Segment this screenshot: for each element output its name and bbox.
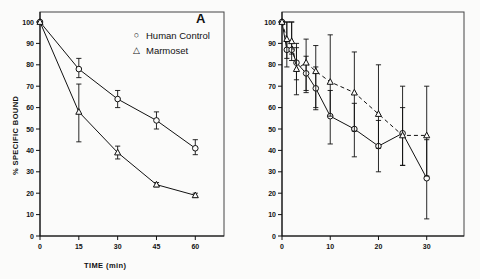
svg-text:90: 90 (26, 40, 34, 47)
svg-text:0: 0 (30, 233, 34, 240)
legend-label-marmoset: Marmoset (146, 43, 188, 58)
panel-a-y-axis-label: % SPECIFIC BOUND (11, 96, 20, 175)
svg-text:20: 20 (375, 243, 383, 250)
svg-text:45: 45 (153, 243, 161, 250)
panel-b-plot: 01020304050607080901000102030 (240, 0, 480, 279)
svg-text:30: 30 (26, 168, 34, 175)
svg-text:50: 50 (268, 126, 276, 133)
svg-text:100: 100 (22, 19, 34, 26)
panel-b: 01020304050607080901000102030 B % SPECIF… (240, 0, 480, 279)
svg-text:10: 10 (326, 243, 334, 250)
svg-text:20: 20 (268, 190, 276, 197)
circle-marker-icon: ○ (132, 31, 141, 40)
svg-text:20: 20 (26, 190, 34, 197)
triangle-marker-icon: △ (132, 46, 141, 55)
svg-text:80: 80 (268, 61, 276, 68)
svg-text:70: 70 (26, 83, 34, 90)
legend-label-human-control: Human Control (146, 28, 210, 43)
svg-text:30: 30 (114, 243, 122, 250)
svg-text:60: 60 (191, 243, 199, 250)
svg-text:40: 40 (26, 147, 34, 154)
svg-text:50: 50 (26, 126, 34, 133)
svg-text:60: 60 (26, 104, 34, 111)
figure-container: 0102030405060708090100015304560 A ○ Huma… (0, 0, 480, 279)
svg-text:70: 70 (268, 83, 276, 90)
svg-text:15: 15 (75, 243, 83, 250)
svg-text:90: 90 (268, 40, 276, 47)
svg-text:60: 60 (268, 104, 276, 111)
svg-text:100: 100 (264, 19, 276, 26)
svg-text:0: 0 (272, 233, 276, 240)
legend-item-human-control: ○ Human Control (132, 28, 210, 43)
legend-item-marmoset: △ Marmoset (132, 43, 210, 58)
legend-panel-a: ○ Human Control △ Marmoset (132, 28, 210, 58)
svg-text:0: 0 (280, 243, 284, 250)
panel-a-x-axis-label: TIME (min) (84, 261, 126, 270)
svg-text:10: 10 (26, 211, 34, 218)
svg-text:30: 30 (268, 168, 276, 175)
svg-text:10: 10 (268, 211, 276, 218)
svg-text:30: 30 (423, 243, 431, 250)
panel-a-letter: A (196, 11, 206, 26)
svg-text:40: 40 (268, 147, 276, 154)
panel-a: 0102030405060708090100015304560 A ○ Huma… (0, 0, 240, 279)
svg-text:80: 80 (26, 61, 34, 68)
svg-text:0: 0 (38, 243, 42, 250)
